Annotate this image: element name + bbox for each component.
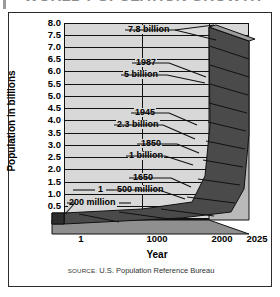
chart-figure-root: WORLD POPULATION GROWTH Population in bi… [0, 0, 280, 297]
y-tick-label: 0.5 [48, 201, 61, 211]
annotation-1945-year: 1945 [134, 108, 156, 117]
page-title: WORLD POPULATION GROWTH [24, 0, 261, 4]
x-tick-label: 2000 [211, 234, 232, 244]
y-tick-label: 0 [56, 213, 61, 223]
ribbon-base-front [52, 220, 249, 234]
y-tick-label: 1.5 [48, 177, 61, 187]
gridline-h [64, 133, 249, 134]
y-tick-label: 4.5 [48, 103, 61, 113]
y-tick-label: 6.0 [48, 66, 61, 76]
y-tick-label: 7.0 [48, 42, 61, 52]
y-tick-label: 2.0 [48, 164, 61, 174]
annotation-1850-year: 1850 [140, 139, 162, 148]
y-tick-label: 7.5 [48, 30, 61, 40]
y-tick-label: 5.5 [48, 79, 61, 89]
y-tick-label: 8.0 [48, 18, 61, 28]
title-accent-bar [3, 0, 6, 9]
y-tick-label: 1.0 [48, 189, 61, 199]
y-tick-label: 5.0 [48, 91, 61, 101]
y-tick-label: 6.5 [48, 54, 61, 64]
annotation-2-3-billion: 2.3 billion [116, 120, 160, 129]
title-strip: WORLD POPULATION GROWTH [0, 0, 280, 11]
annotation-500-million: 500 million [116, 185, 165, 194]
x-axis-title: Year [146, 249, 167, 260]
annotation-1987-year: 1987 [135, 58, 157, 67]
y-tick-label: 4.0 [48, 115, 61, 125]
gridline-h [64, 47, 249, 48]
annotation-7-8-billion: 7.8 billion [127, 25, 171, 34]
annotation-5-billion: 5 billion [123, 70, 159, 79]
x-tick-label: 1 [78, 234, 83, 244]
annotation-year-1: 1 [97, 185, 104, 194]
source-value: U.S. Population Reference Bureau [97, 266, 214, 275]
gridline-h [64, 96, 249, 97]
y-axis-title: Population in billions [6, 70, 17, 171]
gridline-h [64, 35, 249, 36]
y-tick-label: 3.0 [48, 140, 61, 150]
gridline-h [64, 218, 249, 219]
gridline-v [209, 23, 210, 220]
gridline-h [64, 84, 249, 85]
gridline-h [64, 182, 249, 183]
y-tick-label: 2.5 [48, 152, 61, 162]
source-label: SOURCE: [68, 267, 98, 274]
y-tick-label: 3.5 [48, 128, 61, 138]
gridline-h [64, 108, 249, 109]
annotation-1650-year: 1650 [132, 173, 154, 182]
x-tick-label: 2025 [246, 234, 267, 244]
source-note: SOURCE: U.S. Population Reference Bureau [68, 266, 215, 275]
gridline-h [64, 169, 249, 170]
annotation-1-billion: 1 billion [128, 151, 164, 160]
x-tick-label: 1000 [146, 234, 167, 244]
figure-box: Population in billions 8 [8, 12, 272, 287]
annotation-200-million: 200 million [68, 198, 117, 207]
